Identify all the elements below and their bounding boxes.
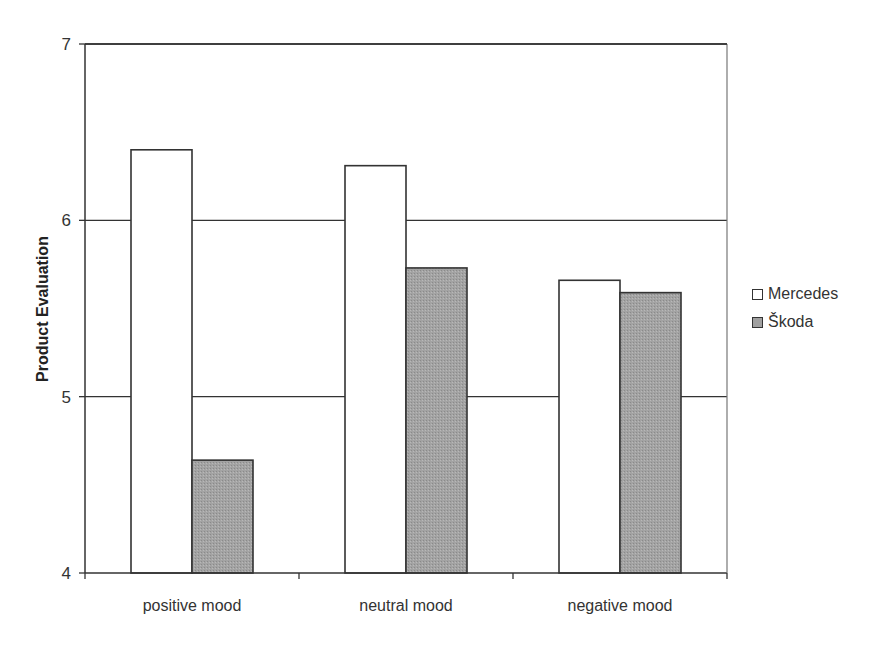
y-tick-label: 4 [62,564,71,583]
bar-koda-2 [620,293,681,573]
x-category-labels: positive moodneutral moodnegative mood [143,597,673,614]
y-tick-label: 5 [62,388,71,407]
legend-item-skoda: Škoda [752,308,838,336]
y-axis-label: Product Evaluation [34,236,51,382]
bar-koda-1 [406,268,467,573]
legend-label-skoda: Škoda [768,313,813,331]
legend-item-mercedes: Mercedes [752,280,838,308]
x-category-label: negative mood [568,597,673,614]
y-tick-label: 7 [62,35,71,54]
x-category-label: positive mood [143,597,242,614]
legend-label-mercedes: Mercedes [768,285,838,303]
bar-koda-0 [192,460,253,573]
mercedes-swatch-icon [752,289,763,300]
bars [131,150,681,573]
skoda-swatch-icon [752,317,763,328]
bar-mercedes-2 [559,280,620,573]
y-tick-labels: 4567 [62,35,71,583]
legend: Mercedes Škoda [752,280,838,336]
y-tick-label: 6 [62,211,71,230]
x-category-label: neutral mood [359,597,452,614]
bar-mercedes-0 [131,150,192,573]
bar-mercedes-1 [345,166,406,573]
